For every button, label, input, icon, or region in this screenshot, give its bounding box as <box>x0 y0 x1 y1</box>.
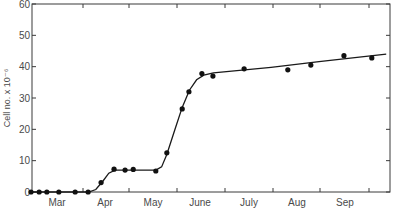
data-point <box>186 89 191 94</box>
cell-count-chart: 0102030405060 MarAprMayJuneJulyAugSep Ce… <box>0 0 396 211</box>
x-axis-ticks: MarAprMayJuneJulyAugSep <box>48 4 369 208</box>
data-point <box>131 167 136 172</box>
data-point <box>153 168 158 173</box>
data-point <box>180 106 185 111</box>
data-points <box>28 53 374 195</box>
data-point <box>98 180 103 185</box>
y-tick-label: 30 <box>19 93 31 104</box>
y-tick-label: 60 <box>19 0 31 10</box>
x-tick-label: Mar <box>48 197 66 208</box>
x-tick-label: Apr <box>97 197 113 208</box>
data-point <box>199 71 204 76</box>
data-point <box>86 189 91 194</box>
y-tick-label: 50 <box>19 30 31 41</box>
x-tick-label: June <box>189 197 211 208</box>
plot-frame <box>32 4 390 192</box>
data-point <box>56 189 61 194</box>
data-point <box>37 189 42 194</box>
data-point <box>44 189 49 194</box>
data-point <box>210 73 215 78</box>
x-tick-label: Sep <box>336 197 354 208</box>
data-point <box>111 167 116 172</box>
data-point <box>28 189 33 194</box>
data-point <box>285 67 290 72</box>
y-tick-label: 40 <box>19 61 31 72</box>
x-tick-label: Aug <box>288 197 306 208</box>
data-point <box>308 63 313 68</box>
fitted-curve <box>31 54 386 192</box>
data-point <box>73 189 78 194</box>
x-tick-label: May <box>144 197 163 208</box>
data-point <box>122 167 127 172</box>
data-point <box>341 53 346 58</box>
data-point <box>164 150 169 155</box>
y-tick-label: 20 <box>19 124 31 135</box>
y-tick-label: 10 <box>19 155 31 166</box>
x-tick-label: July <box>240 197 258 208</box>
data-point <box>369 55 374 60</box>
data-point <box>242 66 247 71</box>
y-axis-ticks: 0102030405060 <box>19 0 390 198</box>
y-axis-label: Cell no. x 10⁻⁶ <box>2 68 12 127</box>
